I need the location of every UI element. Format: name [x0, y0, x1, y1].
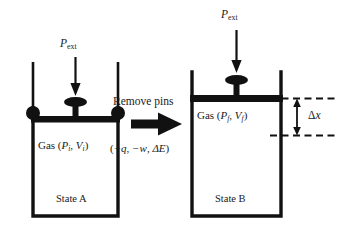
right-gas-label: Gas (Pf, Vf): [197, 110, 247, 123]
left-gas-v-symbol: V: [76, 139, 83, 151]
thermodynamics-piston-figure: Pext Gas (Pi, Vi) State A Remove pins (+…: [0, 0, 337, 231]
left-pressure-symbol: P: [60, 37, 67, 49]
right-pressure-subscript: ext: [228, 13, 238, 22]
displacement-variable: x: [315, 109, 320, 121]
left-gas-suffix: ): [85, 139, 89, 151]
left-pressure-arrow-icon: [70, 57, 80, 96]
left-gas-prefix: Gas (: [38, 139, 62, 151]
left-pressure-subscript: ext: [67, 42, 77, 51]
right-gas-v-symbol: V: [235, 109, 242, 121]
right-pressure-label: Pext: [221, 9, 238, 22]
right-gas-suffix: ): [244, 109, 248, 121]
left-gas-label: Gas (Pi, Vi): [38, 140, 88, 153]
transition-operation-label: Remove pins: [113, 96, 173, 108]
right-state-label: State B: [215, 194, 246, 205]
left-state-label: State A: [56, 194, 87, 205]
displacement-arrowhead-up: [293, 99, 301, 108]
figure-vector-layer: [0, 0, 337, 231]
transition-arrow-icon: [131, 113, 182, 136]
energy-close-paren: ): [166, 142, 170, 154]
left-piston-knob: [64, 97, 87, 107]
transition-energy-label: (+q, −w, ΔE): [110, 143, 169, 154]
displacement-arrowhead-down: [293, 127, 301, 136]
displacement-label: Δx: [308, 110, 321, 122]
right-gas-prefix: Gas (: [197, 109, 221, 121]
right-cylinder-group: [190, 30, 283, 216]
left-pin-right[interactable]: [111, 106, 125, 120]
energy-q-term: +q: [114, 142, 127, 154]
right-pressure-symbol: P: [221, 8, 228, 20]
left-pressure-label: Pext: [60, 38, 77, 51]
right-piston-knob: [225, 75, 248, 85]
energy-w-term: −w: [132, 142, 147, 154]
right-pressure-arrow-icon: [231, 30, 241, 73]
energy-e-term: ΔE: [152, 142, 165, 154]
left-pin-left[interactable]: [26, 106, 40, 120]
